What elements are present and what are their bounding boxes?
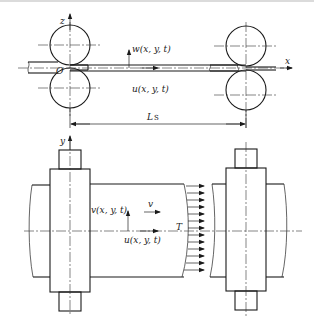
w-displacement-label: w(x, y, t) bbox=[132, 44, 171, 54]
right-roll-stand-plan bbox=[226, 142, 266, 318]
velocity-label: v bbox=[148, 199, 153, 209]
origin-label: O bbox=[56, 66, 64, 76]
plan-view: y bbox=[24, 136, 302, 318]
strip-plan bbox=[29, 184, 287, 277]
y-axis-label: y bbox=[59, 136, 66, 146]
tension-label: T bbox=[176, 222, 183, 232]
v-displacement-label: v(x, y, t) bbox=[91, 205, 128, 215]
span-dimension: LS bbox=[70, 108, 246, 128]
span-label: LS bbox=[146, 112, 159, 122]
z-axis-label: z bbox=[59, 16, 65, 26]
tension-arrows bbox=[184, 186, 204, 270]
u-displacement-label-side: u(x, y, t) bbox=[132, 84, 169, 94]
side-view: z x O bbox=[18, 14, 292, 128]
u-displacement-label-plan: u(x, y, t) bbox=[124, 235, 161, 245]
rolling-mill-diagram: z x O bbox=[0, 0, 314, 332]
x-axis-label: x bbox=[285, 56, 290, 66]
diagram-svg: z x O bbox=[0, 0, 314, 332]
left-roll-stand-plan bbox=[50, 140, 90, 316]
